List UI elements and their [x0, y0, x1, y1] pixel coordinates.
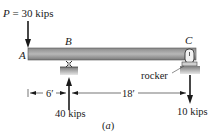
figure-caption: (a) [102, 120, 115, 132]
rocker-label: rocker [141, 70, 168, 81]
reaction-B-label: 40 kips [55, 108, 86, 119]
arrow-down-icon [187, 95, 193, 104]
dimension-AB: 6′ [46, 88, 54, 99]
ground-hatch [180, 66, 200, 74]
point-label-A: A [18, 49, 26, 61]
load-P: P = 30 kips [2, 7, 54, 48]
reaction-B: 40 kips [55, 77, 86, 119]
ground-hatch [60, 67, 78, 75]
arrow-up-icon [66, 77, 72, 86]
dimension-line: 6′ 18′ [28, 88, 186, 99]
beam-diagram: P = 30 kips A B C rocker 6′ 18′ 40 ki [0, 0, 214, 140]
dimension-BC: 18′ [122, 88, 135, 99]
point-label-B: B [65, 35, 72, 47]
arrow-down-icon [25, 39, 31, 48]
pin-support-B [60, 61, 78, 75]
reaction-C-label: 10 kips [177, 106, 208, 117]
load-label: P = 30 kips [2, 7, 54, 19]
point-label-C: C [185, 34, 193, 46]
reaction-C: 10 kips [177, 75, 208, 117]
beam [28, 48, 196, 60]
